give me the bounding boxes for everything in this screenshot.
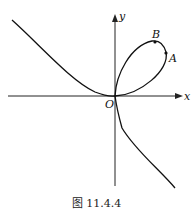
- point-a: [164, 51, 167, 54]
- x-axis-label: x: [184, 90, 191, 103]
- origin-label: O: [105, 98, 114, 111]
- point-b-label: B: [151, 28, 160, 41]
- curve-left-branch: [12, 20, 115, 96]
- x-axis-arrow-icon: [175, 93, 183, 99]
- y-axis-arrow-icon: [112, 14, 118, 22]
- figure-caption: 图 11.4.4: [0, 194, 193, 210]
- x-axis: [8, 93, 183, 99]
- point-a-label: A: [168, 52, 177, 65]
- curve-lower-branch: [115, 96, 175, 188]
- figure-canvas: B A O x y: [0, 0, 193, 213]
- curve-loop: [115, 41, 166, 96]
- y-axis-label: y: [118, 10, 126, 23]
